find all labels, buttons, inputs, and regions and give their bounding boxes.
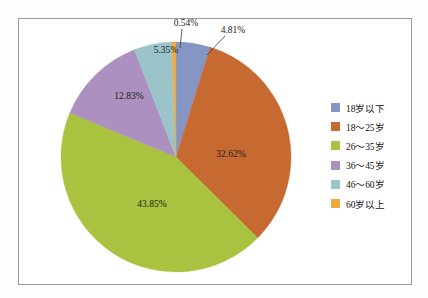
chart-figure: 4.81% 32.62% 43.85% 12.83% 5.35% 0.54% 1… bbox=[0, 0, 428, 298]
legend-item-60-plus[interactable]: 60岁以上 bbox=[331, 194, 407, 213]
legend-item-under-18[interactable]: 18岁以下 bbox=[331, 98, 407, 117]
legend-item-18-25[interactable]: 18～25岁 bbox=[331, 117, 407, 136]
slice-label-26-35: 43.85% bbox=[137, 199, 166, 209]
legend-swatch-icon-46-60 bbox=[331, 180, 340, 189]
legend-swatch-icon-under-18 bbox=[331, 103, 340, 112]
chart-legend: 18岁以下 18～25岁 26～35岁 36～45岁 46～60岁 60岁以上 bbox=[331, 98, 407, 213]
slice-label-18-25: 32.62% bbox=[216, 149, 245, 159]
legend-label-18-25: 18～25岁 bbox=[346, 120, 384, 134]
legend-item-26-35[interactable]: 26～35岁 bbox=[331, 136, 407, 155]
legend-swatch-icon-26-35 bbox=[331, 141, 340, 150]
legend-label-36-45: 36～45岁 bbox=[346, 158, 384, 172]
legend-item-46-60[interactable]: 46～60岁 bbox=[331, 175, 407, 194]
legend-item-36-45[interactable]: 36～45岁 bbox=[331, 156, 407, 175]
legend-label-46-60: 46～60岁 bbox=[346, 177, 384, 191]
legend-label-60-plus: 60岁以上 bbox=[346, 197, 385, 211]
legend-label-26-35: 26～35岁 bbox=[346, 139, 384, 153]
slice-label-60-plus: 0.54% bbox=[174, 18, 199, 28]
slice-label-36-45: 12.83% bbox=[114, 91, 143, 101]
slice-label-46-60: 5.35% bbox=[154, 45, 179, 55]
pie-slice-group bbox=[61, 42, 291, 272]
legend-label-under-18: 18岁以下 bbox=[346, 101, 385, 115]
legend-swatch-icon-18-25 bbox=[331, 122, 340, 131]
legend-swatch-icon-36-45 bbox=[331, 161, 340, 170]
slice-label-18-25-outside-4-81: 4.81% bbox=[221, 25, 246, 35]
legend-swatch-icon-60-plus bbox=[331, 199, 340, 208]
